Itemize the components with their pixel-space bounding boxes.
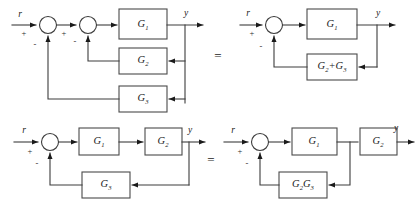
diagram-top-left: r + - + - G1 y G2 G3 <box>12 8 203 112</box>
wire-g3-to-outer-summer <box>48 36 119 99</box>
sign-minus-tr: - <box>260 41 263 51</box>
equals-sign-top: = <box>214 48 221 63</box>
figure-canvas: r + - + - G1 y G2 G3 = <box>0 0 417 209</box>
sign-minus-bl: - <box>36 158 39 168</box>
input-label-r-bl: r <box>22 125 26 135</box>
inner-summer <box>80 17 97 34</box>
outer-summer <box>40 17 57 34</box>
summer-br <box>252 134 269 151</box>
sign-minus-br: - <box>246 158 249 168</box>
input-label-r-br: r <box>231 125 235 135</box>
equals-sign-bottom: = <box>207 152 214 167</box>
wire-feedback-to-summer-br <box>260 153 279 185</box>
output-label-y-tr: y <box>375 8 381 18</box>
wire-g3-to-summer-bl <box>50 153 82 185</box>
input-label-r: r <box>18 9 22 19</box>
feedback-block-sum-label-tr: G2+G3 <box>318 60 348 72</box>
sign-minus-inner: - <box>74 36 77 46</box>
sign-plus-outer: + <box>22 28 27 38</box>
diagram-top-right: r + - G1 y G2+G3 <box>240 8 395 80</box>
output-label-y-bl: y <box>187 125 193 135</box>
output-label-y-br: y <box>393 123 399 133</box>
input-label-r-tr: r <box>246 8 250 18</box>
wire-g2-to-inner-summer <box>88 36 119 61</box>
diagram-bottom-left: r + - G1 G2 y G3 <box>14 125 205 198</box>
wire-feedback-to-summer-tr <box>274 36 307 67</box>
summer-tr <box>266 17 283 34</box>
sign-plus-bl: + <box>28 146 33 156</box>
sign-minus-outer: - <box>34 39 37 49</box>
output-label-y: y <box>183 8 189 18</box>
summer-bl <box>42 134 59 151</box>
sign-plus-tr: + <box>250 28 255 38</box>
sign-plus-inner: + <box>62 28 67 38</box>
sign-plus-br: + <box>238 146 243 156</box>
block-diagram-svg: r + - + - G1 y G2 G3 = <box>0 0 417 209</box>
diagram-bottom-right: r + - G1 G2 y G2G3 <box>224 123 414 198</box>
